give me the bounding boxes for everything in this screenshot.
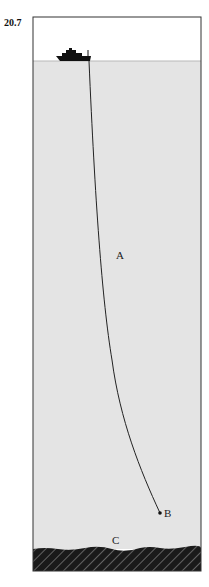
label-c: C <box>112 534 119 546</box>
sky-area <box>33 17 201 61</box>
water-area <box>33 61 201 549</box>
diagram <box>0 0 209 587</box>
seabed <box>33 546 201 571</box>
point-b-marker <box>158 511 162 515</box>
label-a: A <box>116 249 124 261</box>
label-b: B <box>164 507 171 519</box>
